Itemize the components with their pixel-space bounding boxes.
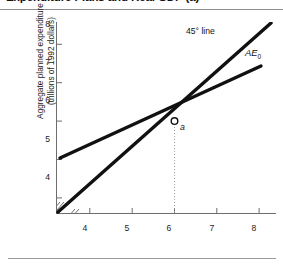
annotation-ae0-base: AE: [245, 47, 258, 58]
x-tick-label-7: 7: [205, 223, 219, 233]
series-45-degree-line: [58, 23, 271, 212]
x-tick-label-5: 5: [120, 223, 134, 233]
y-tick-label-7: 7: [36, 57, 50, 67]
figure-title: Expenditure Plans and Real GDP (a): [6, 0, 236, 3]
equilibrium-point-marker: [171, 118, 178, 125]
x-tick-label-8: 8: [247, 223, 261, 233]
y-tick-label-4: 4: [36, 172, 50, 182]
plot-area: [56, 22, 276, 214]
chart-svg: [56, 22, 276, 214]
annotation-ae0-subscript: 0: [258, 53, 262, 60]
annotation-equilibrium-point-a: a: [180, 122, 185, 132]
top-rule: [0, 9, 283, 10]
y-tick-label-5: 5: [36, 134, 50, 144]
annotation-45-degree-line: 45° line: [186, 26, 215, 36]
figure-root: Expenditure Plans and Real GDP (a) Aggre…: [0, 0, 283, 265]
bottom-rule: [8, 258, 276, 259]
x-tick-label-4: 4: [78, 223, 92, 233]
y-tick-label-8: 8: [36, 19, 50, 29]
x-tick-label-6: 6: [162, 223, 176, 233]
series-ae0-line: [60, 66, 261, 158]
annotation-ae0-label: AE0: [245, 47, 261, 60]
y-tick-label-6: 6: [36, 95, 50, 105]
